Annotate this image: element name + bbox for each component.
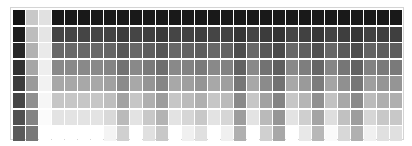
heatmap-cell: [39, 126, 51, 141]
heatmap-cell: [312, 60, 324, 75]
heatmap-cell: [65, 43, 77, 58]
heatmap-cell: [169, 93, 181, 108]
heatmap-cell: [156, 126, 168, 141]
heatmap-cell: [26, 76, 38, 91]
heatmap-cell: [299, 126, 311, 141]
heatmap-cell: [208, 126, 220, 141]
heatmap-cell: [325, 27, 337, 42]
heatmap-cell: [221, 43, 233, 58]
heatmap-cell: [377, 76, 389, 91]
heatmap-cell: [325, 60, 337, 75]
heatmap-cell: [104, 27, 116, 42]
heatmap-cell: [143, 93, 155, 108]
heatmap-cell: [247, 126, 259, 141]
heatmap-cell: [351, 126, 363, 141]
heatmap-cell: [104, 10, 116, 25]
heatmap-cell: [78, 43, 90, 58]
heatmap-cell: [91, 27, 103, 42]
heatmap-cell: [65, 10, 77, 25]
heatmap-cell: [91, 126, 103, 141]
heatmap-cell: [260, 110, 272, 125]
heatmap-cell: [325, 126, 337, 141]
heatmap-cell: [26, 93, 38, 108]
heatmap-cell: [169, 10, 181, 25]
heatmap-cell: [104, 110, 116, 125]
heatmap-cell: [312, 76, 324, 91]
heatmap-cell: [39, 27, 51, 42]
heatmap-cell: [91, 110, 103, 125]
heatmap-cell: [351, 10, 363, 25]
heatmap-cell: [286, 126, 298, 141]
heatmap-cell: [377, 60, 389, 75]
heatmap-cell: [104, 126, 116, 141]
heatmap-cell: [377, 10, 389, 25]
heatmap-cell: [13, 27, 25, 42]
heatmap-cell: [299, 10, 311, 25]
heatmap-cell: [234, 43, 246, 58]
heatmap-cell: [377, 126, 389, 141]
heatmap-cell: [65, 27, 77, 42]
heatmap-cell: [130, 27, 142, 42]
heatmap-cell: [156, 43, 168, 58]
heatmap-cell: [351, 76, 363, 91]
heatmap-cell: [39, 60, 51, 75]
heatmap-cell: [260, 43, 272, 58]
heatmap-cell: [208, 93, 220, 108]
heatmap-cell: [234, 27, 246, 42]
heatmap-cell: [325, 93, 337, 108]
heatmap-cell: [39, 110, 51, 125]
heatmap-cell: [234, 60, 246, 75]
heatmap-cell: [325, 10, 337, 25]
heatmap-cell: [182, 126, 194, 141]
heatmap-cell: [156, 10, 168, 25]
heatmap-cell: [390, 126, 402, 141]
heatmap-cell: [65, 93, 77, 108]
heatmap-cell: [247, 27, 259, 42]
heatmap-cell: [260, 27, 272, 42]
heatmap-cell: [351, 110, 363, 125]
heatmap-cell: [377, 110, 389, 125]
heatmap-cell: [364, 126, 376, 141]
heatmap-cell: [221, 60, 233, 75]
heatmap-cell: [65, 60, 77, 75]
heatmap-cell: [130, 93, 142, 108]
heatmap-cell: [273, 126, 285, 141]
heatmap-cell: [13, 10, 25, 25]
heatmap-cell: [26, 60, 38, 75]
heatmap-cell: [182, 43, 194, 58]
heatmap-cell: [130, 110, 142, 125]
heatmap-cell: [182, 27, 194, 42]
heatmap-grid: [13, 10, 402, 141]
heatmap-cell: [390, 43, 402, 58]
heatmap-cell: [364, 10, 376, 25]
heatmap-cell: [13, 93, 25, 108]
heatmap-cell: [91, 93, 103, 108]
heatmap-cell: [182, 110, 194, 125]
heatmap-cell: [26, 10, 38, 25]
heatmap-cell: [208, 43, 220, 58]
heatmap-cell: [234, 76, 246, 91]
heatmap-cell: [247, 76, 259, 91]
heatmap-cell: [104, 76, 116, 91]
heatmap-cell: [247, 110, 259, 125]
heatmap-cell: [364, 43, 376, 58]
heatmap-cell: [273, 10, 285, 25]
heatmap-cell: [351, 43, 363, 58]
heatmap-cell: [260, 93, 272, 108]
heatmap-cell: [26, 27, 38, 42]
heatmap-cell: [325, 43, 337, 58]
heatmap-cell: [39, 76, 51, 91]
heatmap-cell: [247, 60, 259, 75]
heatmap-cell: [195, 27, 207, 42]
heatmap-cell: [260, 126, 272, 141]
heatmap-cell: [351, 60, 363, 75]
heatmap-cell: [390, 60, 402, 75]
heatmap-cell: [156, 93, 168, 108]
heatmap-cell: [130, 43, 142, 58]
heatmap-cell: [169, 27, 181, 42]
heatmap-cell: [325, 76, 337, 91]
heatmap-cell: [195, 10, 207, 25]
heatmap-cell: [312, 93, 324, 108]
heatmap-cell: [78, 76, 90, 91]
heatmap-cell: [182, 60, 194, 75]
